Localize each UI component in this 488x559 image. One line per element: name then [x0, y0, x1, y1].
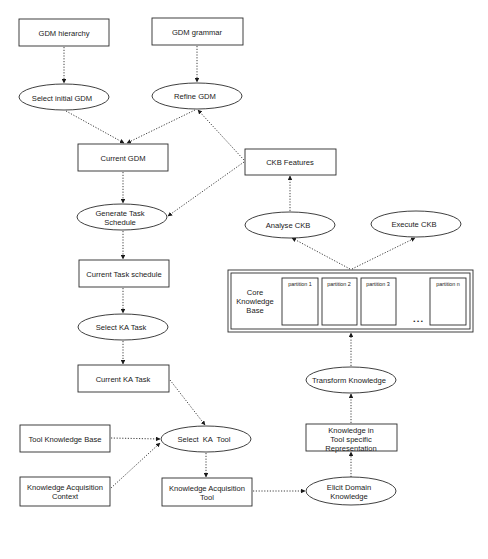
- node-label-line3: Representation: [325, 444, 377, 453]
- node-gdm-hierarchy: GDM hierarchy: [19, 19, 109, 46]
- partition-ellipsis: • • •: [413, 318, 423, 324]
- node-select-initial-gdm: Select initial GDM: [19, 84, 109, 110]
- node-ckb-features: CKB Features: [245, 149, 336, 175]
- node-label: CKB Features: [266, 158, 314, 167]
- node-label-line2: Tool specific: [330, 435, 372, 444]
- partition-n: partition n: [430, 278, 466, 325]
- node-label: GDM hierarchy: [38, 29, 89, 38]
- node-label-line1: Knowledge in: [328, 426, 374, 435]
- ckb-label-line3: Base: [246, 306, 263, 315]
- partition-label: partition n: [436, 281, 460, 287]
- node-label: Select initial GDM: [32, 94, 92, 103]
- edge-ckb-to-execute: [352, 238, 415, 269]
- partition-label: partition 3: [366, 281, 390, 287]
- node-label: Current KA Task: [96, 375, 151, 384]
- node-label-line1: Knowledge Acquisition: [169, 484, 245, 493]
- node-elicit-domain-knowledge: Elicit Domain Knowledge: [306, 477, 396, 505]
- node-knowledge-tool-specific-representation: Knowledge in Tool specific Representatio…: [306, 424, 397, 453]
- node-tool-knowledge-base: Tool Knowledge Base: [20, 425, 110, 452]
- partition-3: partition 3: [361, 278, 396, 325]
- node-label: Current GDM: [100, 154, 145, 163]
- node-label-line2: Knowledge: [330, 492, 368, 501]
- edge-ckb-features-to-generate: [168, 162, 244, 216]
- node-label: Select KA Tool: [177, 435, 230, 444]
- ckb-label-line1: Core: [247, 288, 263, 297]
- node-label: Transform Knowledge: [312, 376, 386, 385]
- node-label-line1: Elicit Domain: [327, 483, 371, 492]
- node-transform-knowledge: Transform Knowledge: [306, 367, 396, 393]
- node-label: Select KA Task: [96, 323, 147, 332]
- node-label-line1: Generate Task: [95, 209, 144, 218]
- node-label: Refine GDM: [174, 92, 216, 101]
- node-label: Tool Knowledge Base: [28, 435, 101, 444]
- node-select-ka-tool: Select KA Tool: [161, 426, 251, 452]
- ka-process-diagram: GDM hierarchy GDM grammar Select initial…: [0, 0, 488, 559]
- node-label-line1: Knowledge Acquisition: [27, 483, 103, 492]
- edge-ckb-to-analyse: [292, 238, 350, 269]
- node-current-task-schedule: Current Task schedule: [79, 260, 169, 287]
- node-label-line2: Schedule: [104, 218, 136, 227]
- node-label: Analyse CKB: [266, 221, 311, 230]
- edge-ka-context-to-select-ka-tool: [111, 443, 160, 488]
- node-current-ka-task: Current KA Task: [78, 365, 169, 392]
- edge-select-initial-to-current-gdm: [66, 111, 124, 143]
- node-analyse-ckb: Analyse CKB: [245, 212, 335, 238]
- partition-1: partition 1: [282, 278, 318, 325]
- partition-label: partition 1: [288, 281, 312, 287]
- partition-2: partition 2: [322, 278, 357, 325]
- node-generate-task-schedule: Generate Task Schedule: [77, 204, 167, 230]
- node-current-gdm: Current GDM: [78, 144, 168, 171]
- node-label: GDM grammar: [172, 28, 223, 37]
- partition-label: partition 2: [327, 281, 351, 287]
- node-label: Current Task schedule: [86, 270, 161, 279]
- edge-refine-to-current-gdm: [127, 110, 195, 143]
- node-gdm-grammar: GDM grammar: [152, 18, 243, 45]
- node-knowledge-acquisition-tool: Knowledge Acquisition Tool: [162, 478, 252, 506]
- node-label-line2: Tool: [200, 493, 214, 502]
- node-refine-gdm: Refine GDM: [152, 83, 242, 109]
- node-core-knowledge-base: Core Knowledge Base partition 1 partitio…: [228, 270, 473, 332]
- edge-ckb-features-to-refine: [198, 110, 244, 160]
- node-select-ka-task: Select KA Task: [78, 314, 168, 340]
- node-label-line2: Context: [52, 492, 79, 501]
- edge-current-ka-task-to-select-ka-tool: [170, 380, 205, 425]
- node-knowledge-acquisition-context: Knowledge Acquisition Context: [20, 477, 110, 506]
- node-label: Execute CKB: [391, 220, 436, 229]
- node-execute-ckb: Execute CKB: [371, 211, 461, 237]
- ckb-label-line2: Knowledge: [236, 297, 274, 306]
- edge-tool-kb-to-select-ka-tool: [111, 438, 160, 439]
